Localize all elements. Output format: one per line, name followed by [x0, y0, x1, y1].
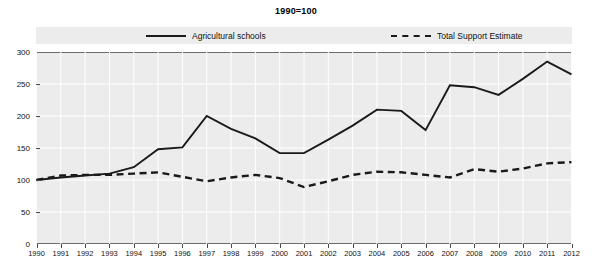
legend-dashed-line-icon — [391, 31, 431, 41]
x-axis-tick — [377, 244, 378, 248]
x-axis-tick — [353, 244, 354, 248]
legend-item-total-support-estimate: Total Support Estimate — [391, 27, 523, 44]
y-axis-tick-label: 100 — [0, 176, 30, 185]
y-axis-tick-label: 0 — [0, 240, 30, 249]
x-axis-tick — [523, 244, 524, 248]
legend-label-total-support-estimate: Total Support Estimate — [437, 31, 523, 41]
x-axis-tick — [547, 244, 548, 248]
plot-lines — [36, 52, 572, 244]
chart-container: 1990=100 Agricultural schools Total Supp… — [0, 0, 592, 269]
y-axis-tick — [36, 116, 40, 117]
x-axis-tick — [328, 244, 329, 248]
x-axis-tick — [572, 244, 573, 248]
x-axis-tick — [280, 244, 281, 248]
y-axis-tick-label: 50 — [0, 208, 30, 217]
x-axis-tick — [426, 244, 427, 248]
x-axis-tick — [134, 244, 135, 248]
x-axis-tick — [61, 244, 62, 248]
x-axis-tick-label: 2012 — [557, 249, 587, 258]
legend-label-agricultural-schools: Agricultural schools — [192, 31, 266, 41]
chart-legend: Agricultural schools Total Support Estim… — [36, 27, 572, 44]
x-axis-tick — [450, 244, 451, 248]
x-axis-tick — [231, 244, 232, 248]
y-axis-tick — [36, 84, 40, 85]
y-axis-tick — [36, 148, 40, 149]
y-axis-tick-label: 300 — [0, 48, 30, 57]
x-axis-tick — [158, 244, 159, 248]
x-axis-tick — [499, 244, 500, 248]
y-axis-tick — [36, 180, 40, 181]
x-axis-tick — [109, 244, 110, 248]
y-axis-tick-label: 200 — [0, 112, 30, 121]
x-axis-tick — [85, 244, 86, 248]
x-axis-tick — [474, 244, 475, 248]
y-axis-tick-label: 250 — [0, 80, 30, 89]
x-axis-tick — [304, 244, 305, 248]
x-axis-tick — [255, 244, 256, 248]
legend-solid-line-icon — [146, 31, 186, 41]
x-axis-tick — [182, 244, 183, 248]
legend-item-agricultural-schools: Agricultural schools — [146, 27, 266, 44]
x-axis-tick — [37, 244, 38, 248]
x-axis-tick — [207, 244, 208, 248]
y-axis-tick-label: 150 — [0, 144, 30, 153]
chart-title: 1990=100 — [0, 6, 592, 17]
x-axis-tick — [401, 244, 402, 248]
y-axis-tick — [36, 212, 40, 213]
